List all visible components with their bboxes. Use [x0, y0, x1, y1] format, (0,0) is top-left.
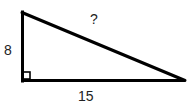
- hypotenuse: [22, 13, 185, 81]
- right-angle-marker-icon: [23, 72, 30, 79]
- hypotenuse-label: ?: [90, 11, 98, 27]
- vertical-leg-label: 8: [4, 42, 12, 58]
- right-triangle-diagram: 8 15 ?: [0, 0, 192, 111]
- horizontal-leg-label: 15: [78, 88, 94, 104]
